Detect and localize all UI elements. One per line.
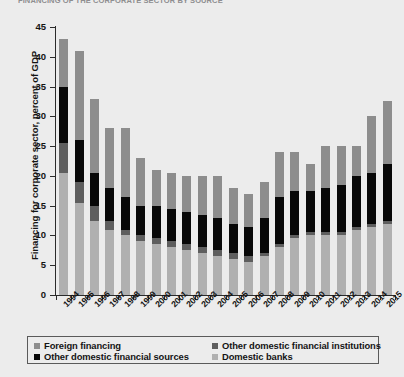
bar-segment xyxy=(90,221,99,295)
bar-2001 xyxy=(167,173,176,295)
bar-1994 xyxy=(59,39,68,295)
y-axis-tick-label: 45 xyxy=(6,22,46,31)
bar-segment xyxy=(321,188,330,233)
bar-1997 xyxy=(105,128,114,295)
bar-segment xyxy=(105,188,114,221)
bar-segment xyxy=(367,227,376,295)
bar-2003 xyxy=(198,176,207,295)
bar-2000 xyxy=(152,170,161,295)
bar-segment xyxy=(275,152,284,197)
bar-segment xyxy=(90,206,99,221)
bar-segment xyxy=(383,224,392,295)
bar-segment xyxy=(244,194,253,227)
y-axis-tick xyxy=(50,235,55,236)
legend-swatch-icon xyxy=(212,354,218,360)
bar-segment xyxy=(244,262,253,295)
bar-segment xyxy=(182,176,191,212)
bar-segment xyxy=(229,188,238,224)
bar-segment xyxy=(275,197,284,245)
bar-segment xyxy=(121,197,130,230)
bar-segment xyxy=(75,182,84,203)
y-axis-tick xyxy=(50,27,55,28)
bar-segment xyxy=(290,238,299,295)
bar-segment xyxy=(213,218,222,251)
y-axis-tick xyxy=(50,87,55,88)
bar-segment xyxy=(352,176,361,227)
bar-segment xyxy=(306,191,315,233)
bar-2002 xyxy=(182,176,191,295)
legend-swatch-icon xyxy=(212,343,218,349)
y-axis-tick-label: 40 xyxy=(6,52,46,61)
bar-1996 xyxy=(90,99,99,296)
bar-segment xyxy=(337,235,346,295)
bar-segment xyxy=(182,250,191,295)
bar-2008 xyxy=(275,152,284,295)
bar-segment xyxy=(321,146,330,188)
bar-segment xyxy=(198,176,207,215)
bar-segment xyxy=(59,143,68,173)
bar-segment xyxy=(152,244,161,295)
bar-segment xyxy=(59,39,68,87)
bar-segment xyxy=(290,152,299,191)
bar-segment xyxy=(306,235,315,295)
bar-segment xyxy=(260,182,269,218)
bar-segment xyxy=(121,235,130,295)
chart-legend: Foreign financingOther domestic financia… xyxy=(27,336,379,364)
legend-label: Foreign financing xyxy=(44,341,121,351)
bar-segment xyxy=(337,185,346,233)
bar-1995 xyxy=(75,51,84,295)
bar-segment xyxy=(182,212,191,245)
y-axis-tick xyxy=(50,57,55,58)
bar-segment xyxy=(213,256,222,295)
y-axis-tick xyxy=(50,176,55,177)
legend-swatch-icon xyxy=(34,354,40,360)
legend-item: Domestic banks xyxy=(212,351,293,363)
y-axis-tick-label: 10 xyxy=(6,230,46,239)
bar-segment xyxy=(136,206,145,236)
bar-segment xyxy=(229,259,238,295)
bar-2005 xyxy=(229,188,238,295)
y-axis-tick xyxy=(50,265,55,266)
legend-item: Other domestic financial sources xyxy=(34,351,189,363)
bar-2012 xyxy=(337,146,346,295)
bar-segment xyxy=(152,206,161,239)
bar-segment xyxy=(105,221,114,230)
bar-segment xyxy=(90,173,99,206)
y-axis-tick-label: 25 xyxy=(6,141,46,150)
bar-segment xyxy=(167,209,176,242)
bar-segment xyxy=(290,191,299,236)
y-axis-tick-label: 5 xyxy=(6,260,46,269)
bar-segment xyxy=(75,203,84,295)
bar-segment xyxy=(352,230,361,296)
bar-segment xyxy=(383,164,392,221)
bar-segment xyxy=(167,247,176,295)
bar-2006 xyxy=(244,194,253,295)
y-axis-tick xyxy=(50,146,55,147)
plot-area xyxy=(56,27,395,295)
bar-1998 xyxy=(121,128,130,295)
bar-segment xyxy=(59,87,68,144)
chart-title: FINANCING OF THE CORPORATE SECTOR BY SOU… xyxy=(18,0,390,5)
bar-segment xyxy=(105,230,114,296)
y-axis-tick xyxy=(50,206,55,207)
bar-segment xyxy=(260,218,269,254)
bar-2010 xyxy=(306,164,315,295)
bar-segment xyxy=(121,128,130,196)
bar-2015 xyxy=(383,101,392,295)
bar-segment xyxy=(75,51,84,140)
bar-segment xyxy=(352,146,361,176)
bar-segment xyxy=(321,235,330,295)
bar-2004 xyxy=(213,176,222,295)
y-axis-tick xyxy=(50,295,55,296)
x-axis-tick xyxy=(56,296,57,300)
bar-segment xyxy=(198,253,207,295)
bar-2014 xyxy=(367,116,376,295)
bar-segment xyxy=(75,140,84,182)
bar-segment xyxy=(152,170,161,206)
y-axis-tick-label: 15 xyxy=(6,201,46,210)
legend-label: Domestic banks xyxy=(222,352,293,362)
bar-segment xyxy=(105,128,114,188)
legend-label: Other domestic financial institutions xyxy=(222,341,381,351)
bar-1999 xyxy=(136,158,145,295)
